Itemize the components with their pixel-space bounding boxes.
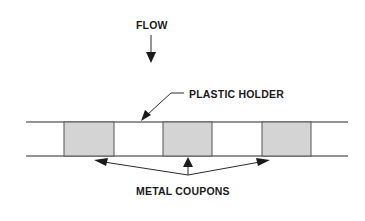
coupon-pointer-arrows-icon (94, 157, 270, 175)
flow-label: FLOW (136, 19, 168, 31)
holder-leader-arrow-icon (141, 93, 184, 121)
plastic-holder-label: PLASTIC HOLDER (189, 88, 284, 100)
flow-arrow-icon (146, 35, 156, 63)
metal-coupon-2 (163, 122, 212, 156)
metal-coupon-1 (64, 122, 114, 156)
metal-coupons-label: METAL COUPONS (136, 185, 230, 197)
coupon-holder-diagram: FLOW PLASTIC HOLDER METAL COUPONS (0, 0, 365, 221)
metal-coupon-3 (262, 122, 311, 156)
